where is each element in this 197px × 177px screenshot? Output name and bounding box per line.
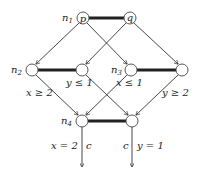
lattice-diagram: p q n1 n2 n3 n4 x ≥ 2 y ≤ 1 x ≤ 1 y ≥ 2 … [0, 0, 197, 177]
node-label-p: p [80, 13, 87, 24]
label-x-eq-2: x = 2 [51, 140, 78, 151]
pair-bars [38, 18, 176, 121]
label-y-le-1: y ≤ 1 [65, 77, 93, 88]
label-y-eq-1: y = 1 [136, 140, 164, 151]
name-n1: n1 [62, 12, 73, 25]
label-c-right: c [123, 140, 129, 151]
label-x-le-1: x ≤ 1 [116, 77, 143, 88]
name-n4: n4 [61, 115, 72, 128]
node-n2 [26, 64, 38, 76]
node-n2-right [76, 64, 88, 76]
name-n3: n3 [111, 64, 122, 77]
label-x-ge-2: x ≥ 2 [26, 87, 53, 98]
name-n2: n2 [11, 64, 22, 77]
label-c-left: c [86, 140, 92, 151]
label-y-ge-2: y ≥ 2 [161, 87, 189, 98]
node-n3-right [176, 64, 188, 76]
node-n4 [76, 115, 88, 127]
node-n3 [125, 64, 137, 76]
node-label-q: q [127, 12, 133, 23]
node-n4-right [126, 115, 138, 127]
